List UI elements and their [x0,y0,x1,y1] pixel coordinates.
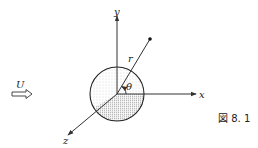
figure-caption: 図 8. 1 [218,113,250,124]
field-point [148,37,152,41]
sphere-flow-diagram: y x z r θ U 図 8. 1 [0,0,258,148]
flow-arrow [12,90,32,99]
y-axis-label: y [113,6,120,17]
z-axis-label: z [62,135,69,146]
angle-label: θ [126,81,132,92]
radius-label: r [128,53,134,64]
x-axis-label: x [199,89,205,100]
flow-label: U [16,79,25,90]
